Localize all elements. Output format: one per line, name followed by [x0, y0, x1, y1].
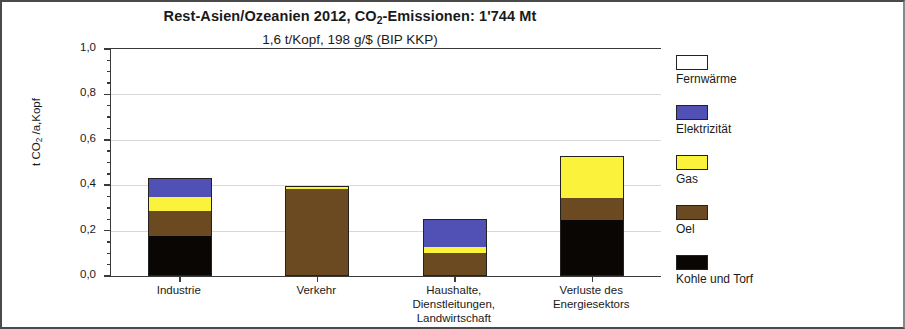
x-axis-tick-label: Verluste desEnergiesektors [523, 283, 661, 311]
y-axis-minor-tick [107, 253, 111, 254]
y-axis-gridline [111, 94, 661, 95]
x-axis-tick [179, 276, 181, 282]
y-axis-tick-label: 0,8 [62, 87, 96, 99]
y-axis-title-part-2: /a,Kopf [30, 98, 42, 138]
x-axis-tick-label: Industrie [110, 283, 248, 297]
legend-label: Elektrizität [676, 122, 731, 136]
bar-segment [285, 186, 349, 188]
x-axis-tick-label-line: Industrie [110, 283, 248, 297]
y-axis-tick-label: 0,2 [62, 224, 96, 236]
y-axis-title: t CO2 /a,Kopf [30, 98, 42, 166]
legend-label: Fernwärme [676, 72, 737, 86]
y-axis-minor-tick [107, 173, 111, 174]
legend-swatch-icon [676, 205, 708, 220]
y-axis-minor-tick [107, 219, 111, 220]
x-axis-tick-label: Haushalte,Dienstleitungen,Landwirtschaft [385, 283, 523, 325]
y-axis-minor-tick [107, 150, 111, 151]
bar-segment [148, 236, 212, 276]
y-axis-minor-tick [107, 116, 111, 117]
x-axis-tick-label-line: Landwirtschaft [385, 311, 523, 325]
bar-segment [560, 156, 624, 198]
bar-segment [560, 198, 624, 221]
legend-item[interactable]: Kohle und Torf [676, 255, 876, 289]
y-axis-minor-tick [107, 264, 111, 265]
chart-figure: Rest-Asien/Ozeanien 2012, CO2-Emissionen… [0, 0, 905, 329]
legend-item[interactable]: Elektrizität [676, 105, 876, 139]
bar-segment [423, 219, 487, 247]
legend-item[interactable]: Fernwärme [676, 55, 876, 89]
legend-swatch-icon [676, 105, 708, 120]
x-axis-tick-label-line: Verkehr [248, 283, 386, 297]
chart-title: Rest-Asien/Ozeanien 2012, CO2-Emissionen… [0, 8, 700, 24]
y-axis-minor-tick [107, 162, 111, 163]
y-axis-gridline [111, 140, 661, 141]
chart-title-part-2: -Emissionen: 1'744 Mt [383, 8, 537, 24]
x-axis-tick-labels: IndustrieVerkehrHaushalte,Dienstleitunge… [110, 283, 660, 329]
chart-subtitle: 1,6 t/Kopf, 198 g/$ (BIP KKP) [0, 32, 700, 47]
y-axis-tick-label: 0,4 [62, 178, 96, 190]
x-axis-tick-label: Verkehr [248, 283, 386, 297]
y-axis-tick-label: 1,0 [62, 42, 96, 54]
x-axis-tick [317, 276, 319, 282]
bar-segment [148, 197, 212, 211]
y-axis-minor-tick [107, 105, 111, 106]
y-axis-tick-labels: 0,00,20,40,60,81,0 [62, 48, 96, 275]
y-axis-minor-tick [107, 60, 111, 61]
y-axis-title-subscript: 2 [35, 138, 44, 143]
chart-title-part-1: Rest-Asien/Ozeanien 2012, CO [164, 8, 377, 24]
x-axis-tick [454, 276, 456, 282]
bar-segment [148, 178, 212, 197]
y-axis-major-tick [104, 230, 111, 232]
x-axis-tick [592, 276, 594, 282]
y-axis-title-part-1: t CO [30, 142, 42, 166]
y-axis-major-tick [104, 48, 111, 50]
bar-segment [285, 189, 349, 276]
legend-label: Kohle und Torf [676, 272, 753, 286]
x-axis-tick-label-line: Verluste des [523, 283, 661, 297]
bar-segment [423, 253, 487, 276]
chart-title-subscript: 2 [377, 15, 383, 26]
legend-swatch-icon [676, 155, 708, 170]
y-axis-major-tick [104, 94, 111, 96]
y-axis-major-tick [104, 184, 111, 186]
legend-item[interactable]: Gas [676, 155, 876, 189]
plot-area [110, 48, 661, 277]
legend-swatch-icon [676, 55, 708, 70]
x-axis-tick-label-line: Haushalte, [385, 283, 523, 297]
bar-segment [148, 211, 212, 236]
y-axis-minor-tick [107, 82, 111, 83]
bar-segment [560, 220, 624, 276]
y-axis-major-tick [104, 275, 111, 277]
y-axis-tick-label: 0,6 [62, 133, 96, 145]
x-axis-tick-label-line: Energiesektors [523, 297, 661, 311]
bar-2[interactable] [285, 186, 349, 276]
y-axis-minor-tick [107, 196, 111, 197]
x-axis-tick-label-line: Dienstleitungen, [385, 297, 523, 311]
y-axis-minor-tick [107, 207, 111, 208]
y-axis-minor-tick [107, 128, 111, 129]
y-axis-tick-label: 0,0 [62, 269, 96, 281]
y-axis-major-tick [104, 139, 111, 141]
legend-label: Gas [676, 172, 698, 186]
bar-3[interactable] [423, 219, 487, 276]
bar-1[interactable] [148, 178, 212, 276]
legend-swatch-icon [676, 255, 708, 270]
bar-segment [423, 247, 487, 253]
bar-4[interactable] [560, 156, 624, 276]
y-axis-minor-tick [107, 71, 111, 72]
legend-label: Oel [676, 222, 695, 236]
y-axis-minor-tick [107, 241, 111, 242]
legend-item[interactable]: Oel [676, 205, 876, 239]
